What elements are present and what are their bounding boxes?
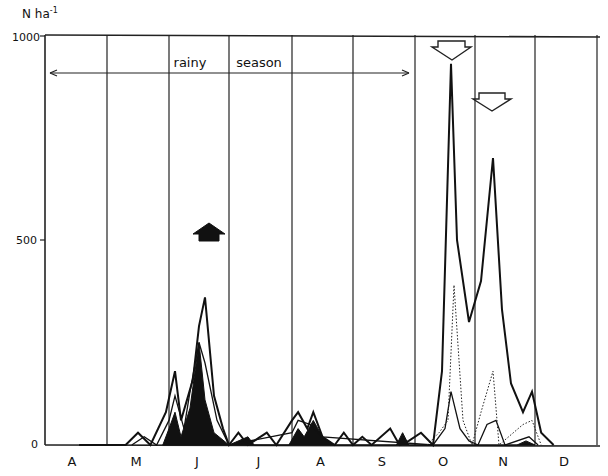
month-label: A (316, 454, 325, 469)
rainy-label: rainy (174, 55, 207, 70)
month-label: J (256, 454, 261, 469)
month-label: J (194, 454, 199, 469)
filled-series-area (163, 343, 535, 446)
y-unit-label: N ha-1 (22, 6, 58, 21)
y-unit-text: N ha (22, 7, 50, 21)
chart-svg: 10005000AMJJASONDrainyseason (0, 0, 608, 476)
plot-frame (40, 35, 600, 446)
y-tick-label-0: 0 (31, 438, 38, 451)
y-tick-label-1000: 1000 (12, 31, 40, 44)
filled-up-arrow-icon (193, 223, 225, 241)
month-label: O (438, 454, 448, 469)
markers-group (193, 41, 511, 241)
open-down-arrow-icon (473, 93, 511, 111)
month-label: N (498, 454, 508, 469)
month-label: M (130, 454, 141, 469)
month-label: A (68, 454, 77, 469)
series-group (79, 64, 553, 445)
month-label: S (378, 454, 386, 469)
open-down-arrow-icon (432, 41, 471, 60)
total-series-line (79, 64, 553, 445)
y-unit-exponent: -1 (50, 6, 58, 15)
y-tick-label-500: 500 (16, 234, 37, 247)
plot-top-border (45, 35, 600, 37)
month-label: D (559, 454, 569, 469)
season-label: season (236, 55, 282, 70)
